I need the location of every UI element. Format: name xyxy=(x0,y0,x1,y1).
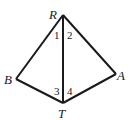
edge-ra xyxy=(63,15,116,74)
angle-label-2: 2 xyxy=(67,29,73,41)
angle-label-3: 3 xyxy=(54,85,60,97)
edge-rb xyxy=(16,15,63,79)
vertex-label-r: R xyxy=(48,7,57,22)
angle-label-1: 1 xyxy=(54,29,60,41)
vertex-label-b: B xyxy=(4,72,12,87)
vertex-label-t: T xyxy=(58,106,66,120)
kite-diagram: R B A T 1 2 3 4 xyxy=(0,0,133,120)
vertex-label-a: A xyxy=(116,68,125,83)
angle-label-4: 4 xyxy=(67,85,73,97)
